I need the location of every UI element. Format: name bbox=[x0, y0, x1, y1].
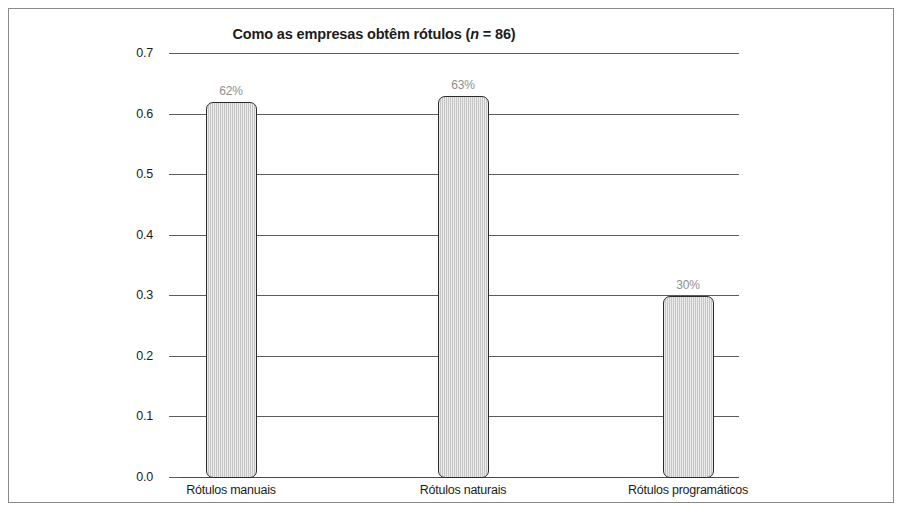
ytick-label-0-4: 0.4 bbox=[93, 228, 153, 242]
tick-dash-0-7 bbox=[169, 53, 180, 54]
tick-dash-0-6 bbox=[169, 114, 180, 115]
tick-dash-0-4 bbox=[169, 235, 180, 236]
ytick-label-0-6: 0.6 bbox=[93, 107, 153, 121]
bar-rotulos-manuais[interactable] bbox=[206, 102, 257, 478]
tick-dash-0-3 bbox=[169, 295, 180, 296]
tick-dash-0-5 bbox=[169, 174, 180, 175]
bar-rotulos-naturais[interactable] bbox=[438, 96, 489, 478]
chart-title-italic-n: n bbox=[470, 26, 479, 42]
ytick-label-0-7: 0.7 bbox=[93, 46, 153, 60]
ytick-label-0-5: 0.5 bbox=[93, 167, 153, 181]
tick-dash-0-1 bbox=[169, 416, 180, 417]
bar-value-rotulos-naturais: 63% bbox=[423, 78, 503, 92]
chart-title-suffix: = 86) bbox=[479, 26, 516, 42]
figure-frame: Como as empresas obtêm rótulos (n = 86) … bbox=[8, 8, 894, 503]
xtick-label-rotulos-manuais: Rótulos manuais bbox=[151, 483, 311, 497]
tick-dash-0-2 bbox=[169, 356, 180, 357]
xtick-label-rotulos-programaticos: Rótulos programáticos bbox=[608, 483, 768, 497]
tick-dash-0-0 bbox=[169, 477, 180, 478]
chart-title: Como as empresas obtêm rótulos (n = 86) bbox=[9, 26, 739, 42]
gridline-0-7 bbox=[179, 53, 739, 54]
bar-rotulos-programaticos[interactable] bbox=[663, 296, 714, 478]
bar-value-rotulos-manuais: 62% bbox=[191, 84, 271, 98]
bar-chart: Como as empresas obtêm rótulos (n = 86) … bbox=[9, 9, 895, 504]
caption-sliver bbox=[12, 508, 512, 517]
xtick-label-rotulos-naturais: Rótulos naturais bbox=[383, 483, 543, 497]
bar-value-rotulos-programaticos: 30% bbox=[648, 278, 728, 292]
ytick-label-0-0: 0.0 bbox=[93, 470, 153, 484]
ytick-label-0-1: 0.1 bbox=[93, 409, 153, 423]
chart-title-prefix: Como as empresas obtêm rótulos ( bbox=[232, 26, 470, 42]
ytick-label-0-2: 0.2 bbox=[93, 349, 153, 363]
ytick-label-0-3: 0.3 bbox=[93, 288, 153, 302]
